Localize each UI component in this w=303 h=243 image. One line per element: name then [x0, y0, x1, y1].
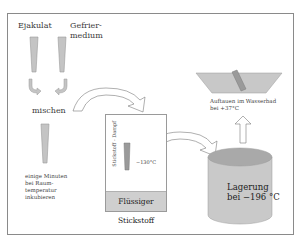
ejakulat-straw-icon	[30, 37, 38, 72]
label-incubate-2: bei Raum-	[25, 180, 53, 187]
vial-in-vapor-icon	[124, 143, 130, 170]
curved-arrow-right-icon	[55, 79, 67, 95]
label-incubate-3: temperatur	[25, 187, 57, 194]
nitrogen-container: Stickstoff - Dampf −130°C Flüssiger Stic…	[105, 114, 167, 212]
mixed-straw-icon	[41, 124, 49, 163]
up-arrow-icon	[235, 116, 251, 143]
label-vapor-temp: −130°C	[136, 159, 156, 165]
label-storage-2: bei −196 °C	[227, 192, 280, 202]
label-thaw-1: Auftauen im Wasserbad	[210, 98, 276, 105]
label-liquid-nitrogen: Flüssiger Stickstoff	[106, 191, 166, 211]
label-storage: Lagerung bei −196 °C	[227, 182, 280, 202]
curved-arrow-to-nitrogen-icon	[73, 88, 145, 112]
label-storage-1: Lagerung	[227, 182, 280, 192]
label-ejakulat: Ejakulat	[18, 21, 52, 30]
label-thaw-2: bei +37°C	[210, 105, 239, 112]
label-gefrier: Gefrier-	[70, 21, 102, 30]
label-incubate-4: inkubieren	[25, 194, 55, 201]
vial-in-vapor-graphic	[106, 115, 166, 195]
storage-tank-top-icon	[208, 148, 272, 166]
curved-arrow-left-icon	[29, 79, 41, 95]
label-incubate-1: einige Minuten	[25, 173, 67, 180]
label-mischen: mischen	[32, 106, 66, 115]
medium-straw-icon	[58, 37, 66, 72]
label-medium: medium	[70, 31, 103, 40]
